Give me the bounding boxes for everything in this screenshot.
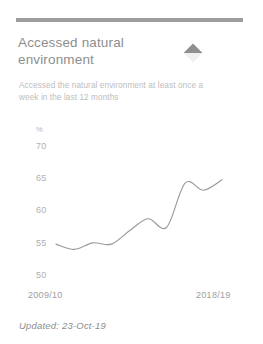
line-chart: % 70 65 60 55 50 2009/10 2018/19 [0,118,263,303]
x-axis-label-end: 2018/19 [196,290,231,300]
updated-label: Updated: 23-Oct-19 [19,320,106,331]
x-axis-label-start: 2009/10 [28,290,63,300]
y-tick-label-50: 50 [36,270,47,280]
y-tick-label-60: 60 [36,205,47,215]
indicator-card: Accessed natural environment Accessed th… [0,0,263,344]
y-axis-unit-label: % [36,125,43,134]
y-tick-label-70: 70 [36,141,47,151]
series-line-path [56,180,222,250]
card-subtitle: Accessed the natural environment at leas… [19,80,219,103]
triangle-up-down-icon [180,40,206,66]
y-tick-label-65: 65 [36,173,47,183]
card-top-rule [16,18,243,22]
y-tick-label-55: 55 [36,238,47,248]
card-title: Accessed natural environment [18,34,168,68]
